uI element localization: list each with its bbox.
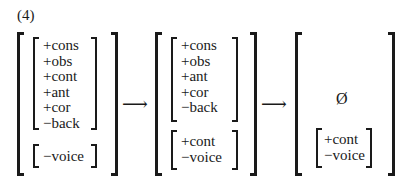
feature: +cons — [181, 38, 218, 54]
place-feature-list: +cons +obs +cont +ant +cor −back — [43, 38, 80, 131]
inner-bracket-left — [171, 37, 177, 122]
feature: −voice — [324, 148, 365, 164]
feature: +cons — [43, 38, 80, 54]
inner-bracket-right — [91, 37, 97, 130]
outer-bracket-right — [250, 32, 257, 176]
arrow-icon: ⟶ — [261, 95, 287, 113]
feature: +cor — [43, 100, 80, 116]
inner-bracket-left — [33, 144, 39, 168]
null-symbol: Ø — [336, 90, 348, 108]
inner-bracket-right — [91, 144, 97, 168]
inner-bracket-right — [366, 128, 372, 168]
laryngeal-feature-list: −voice — [43, 149, 84, 165]
feature: +cont — [43, 69, 80, 85]
feature: +ant — [181, 69, 218, 85]
outer-bracket-right — [111, 32, 118, 176]
feature: −back — [43, 116, 80, 132]
feature: +obs — [43, 54, 80, 70]
example-number: (4) — [17, 7, 35, 24]
inner-bracket-left — [171, 130, 177, 170]
laryngeal-feature-list: +cont −voice — [324, 132, 365, 163]
inner-bracket-left — [316, 128, 322, 168]
outer-bracket-right — [388, 32, 395, 176]
feature: +cont — [324, 132, 365, 148]
inner-bracket-left — [33, 37, 39, 130]
feature: +cor — [181, 85, 218, 101]
feature: −voice — [43, 149, 84, 165]
feature: −back — [181, 100, 218, 116]
outer-bracket-left — [295, 32, 302, 176]
inner-bracket-right — [232, 37, 238, 122]
feature: +ant — [43, 85, 80, 101]
outer-bracket-left — [155, 32, 162, 176]
feature: +cont — [181, 134, 222, 150]
arrow-icon: ⟶ — [122, 95, 148, 113]
place-feature-list: +cons +obs +ant +cor −back — [181, 38, 218, 116]
feature: −voice — [181, 150, 222, 166]
laryngeal-feature-list: +cont −voice — [181, 134, 222, 165]
feature: +obs — [181, 54, 218, 70]
outer-bracket-left — [17, 32, 24, 176]
inner-bracket-right — [232, 130, 238, 170]
